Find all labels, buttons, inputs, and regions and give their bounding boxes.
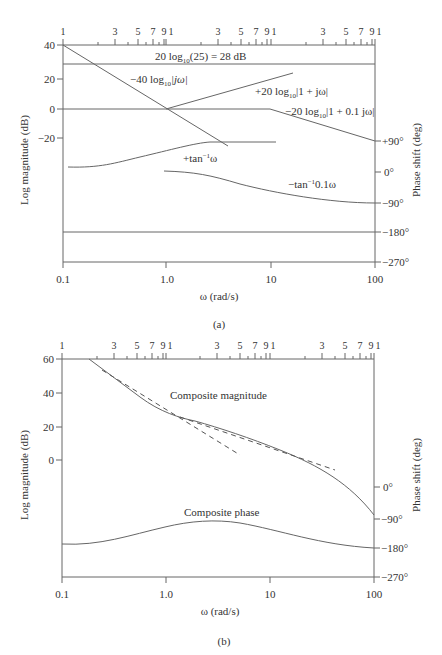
panel-a-x-tick-labels: 0.1 1.0 10 100 (56, 273, 384, 285)
panel-a: 1 3 5 7 9 1 3 5 7 9 1 3 5 7 9 1 40 20 (18, 26, 423, 331)
svg-text:0.1: 0.1 (56, 273, 70, 285)
svg-text:20: 20 (43, 421, 55, 433)
svg-text:3: 3 (321, 26, 326, 37)
svg-text:5: 5 (238, 340, 243, 351)
svg-text:−270°: −270° (382, 256, 409, 268)
svg-text:1: 1 (272, 26, 277, 37)
svg-text:−90°: −90° (381, 513, 403, 525)
panel-b-x-axis-title: ω (rad/s) (201, 605, 240, 618)
panel-a-left-ticks (57, 45, 63, 138)
svg-text:7: 7 (253, 340, 258, 351)
svg-text:100: 100 (367, 273, 384, 285)
zero-annotation: +20 log10|1 + jω| (255, 85, 328, 100)
svg-text:10: 10 (266, 273, 278, 285)
svg-text:3: 3 (320, 340, 325, 351)
svg-text:3: 3 (113, 26, 118, 37)
svg-text:5: 5 (344, 26, 349, 37)
svg-text:5: 5 (343, 340, 348, 351)
pole-phase-annotation: −tan−10.1ω (288, 178, 336, 190)
svg-text:7: 7 (151, 26, 156, 37)
svg-text:9: 9 (370, 26, 375, 37)
svg-text:1.0: 1.0 (159, 588, 173, 600)
composite-phase-curve (62, 521, 374, 548)
svg-text:1: 1 (168, 340, 173, 351)
panel-b-right-axis-title: Phase shift (deg) (410, 438, 423, 512)
svg-text:9: 9 (162, 26, 167, 37)
panel-b-left-ticks (56, 359, 62, 460)
svg-text:3: 3 (216, 26, 221, 37)
svg-text:9: 9 (265, 26, 270, 37)
svg-text:0: 0 (50, 103, 56, 115)
svg-text:100: 100 (366, 588, 383, 600)
svg-text:−180°: −180° (381, 542, 408, 554)
panel-b-left-tick-labels: 60 40 20 0 (43, 353, 55, 466)
svg-text:20: 20 (44, 73, 56, 85)
svg-text:0°: 0° (383, 481, 393, 493)
svg-text:0: 0 (49, 454, 55, 466)
svg-text:5: 5 (239, 26, 244, 37)
svg-text:1: 1 (169, 26, 174, 37)
panel-b-right-ticks (374, 487, 380, 577)
panel-b-x-tick-labels: 0.1 1.0 10 100 (55, 588, 383, 600)
svg-text:60: 60 (43, 353, 55, 365)
panel-b-right-tick-labels: 0° −90° −180° −270° (381, 481, 408, 583)
asymptote-40db-dashed (102, 370, 240, 455)
svg-text:−20: −20 (38, 132, 56, 144)
panel-a-left-axis-title: Log magnitude (dB) (18, 115, 31, 205)
composite-magnitude-curve (89, 359, 374, 515)
svg-text:7: 7 (358, 340, 363, 351)
panel-b-top-tick-labels: 1 3 5 7 9 1 3 5 7 9 1 3 5 7 9 1 (60, 340, 381, 351)
svg-text:10: 10 (265, 588, 277, 600)
svg-text:−90°: −90° (382, 197, 404, 209)
svg-text:7: 7 (254, 26, 259, 37)
asymptote-20db-dashed (180, 417, 335, 470)
pole-phase-curve (164, 171, 375, 203)
composite-phase-label: Composite phase (184, 506, 260, 518)
panel-b-left-axis-title: Log magnitude (dB) (18, 430, 31, 520)
panel-a-x-axis-title: ω (rad/s) (200, 290, 239, 303)
zero-phase-curve (68, 142, 276, 167)
zero-phase-annotation: +tan−1ω (183, 152, 217, 164)
svg-text:1: 1 (61, 26, 66, 37)
svg-text:7: 7 (359, 26, 364, 37)
integrator-annotation: −40 log10|jω| (130, 73, 188, 88)
svg-text:0.1: 0.1 (55, 588, 69, 600)
svg-text:−180°: −180° (382, 226, 409, 238)
svg-text:−270°: −270° (381, 571, 408, 583)
panel-a-bottom-ticks (63, 262, 271, 268)
svg-text:0°: 0° (384, 166, 394, 178)
gain-annotation: 20 log10(25) = 28 dB (155, 50, 246, 65)
svg-text:1: 1 (376, 340, 381, 351)
panel-b-label: (b) (218, 635, 231, 648)
svg-text:5: 5 (136, 26, 141, 37)
svg-text:1: 1 (60, 340, 65, 351)
panel-a-right-ticks (375, 141, 381, 262)
svg-text:9: 9 (369, 340, 374, 351)
svg-text:1: 1 (377, 26, 382, 37)
svg-text:1: 1 (271, 340, 276, 351)
panel-a-left-tick-labels: 40 20 0 −20 (38, 39, 56, 144)
svg-text:40: 40 (43, 387, 55, 399)
panel-a-top-ticks (63, 39, 375, 45)
composite-magnitude-label: Composite magnitude (170, 389, 267, 401)
svg-text:7: 7 (150, 340, 155, 351)
svg-text:+90°: +90° (382, 135, 404, 147)
bode-figure: 1 3 5 7 9 1 3 5 7 9 1 3 5 7 9 1 40 20 (0, 0, 442, 655)
svg-text:1.0: 1.0 (160, 273, 174, 285)
svg-text:3: 3 (215, 340, 220, 351)
panel-a-right-axis-title: Phase shift (deg) (410, 123, 423, 197)
panel-a-label: (a) (213, 318, 226, 331)
panel-b-bottom-ticks (62, 577, 270, 583)
panel-a-top-tick-labels: 1 3 5 7 9 1 3 5 7 9 1 3 5 7 9 1 (61, 26, 382, 37)
svg-text:9: 9 (161, 340, 166, 351)
svg-text:5: 5 (135, 340, 140, 351)
svg-text:9: 9 (264, 340, 269, 351)
panel-b-top-ticks (62, 353, 374, 359)
panel-a-right-tick-labels: +90° 0° −90° −180° −270° (382, 135, 409, 268)
svg-text:3: 3 (112, 340, 117, 351)
svg-text:40: 40 (44, 39, 56, 51)
panel-b: 1 3 5 7 9 1 3 5 7 9 1 3 5 7 9 1 60 40 20 (18, 340, 423, 648)
